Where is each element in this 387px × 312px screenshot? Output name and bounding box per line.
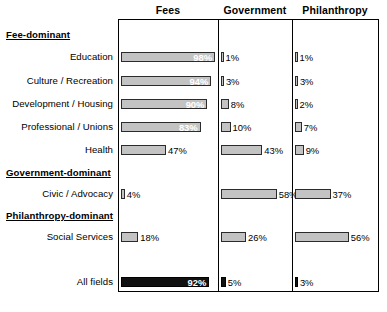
bar-culture-recreation-fees: 94%: [121, 76, 211, 86]
row-label-health: Health: [85, 144, 113, 155]
bar-value-education-fees: 98%: [193, 53, 212, 63]
bar-value-health-government: 43%: [264, 146, 283, 156]
column-header-philanthropy: Philanthropy: [285, 4, 385, 16]
bar-civic-advocacy-philanthropy: 37%: [295, 189, 331, 199]
column-divider-1: [218, 19, 219, 292]
bar-value-all-fields-philanthropy: 3%: [300, 278, 314, 288]
bar-value-development-housing-fees: 90%: [186, 100, 205, 110]
bar-culture-recreation-government: 3%: [221, 76, 224, 86]
row-label-development-housing: Development / Housing: [12, 98, 113, 109]
bar-development-housing-philanthropy: 2%: [295, 99, 298, 109]
bar-education-government: 1%: [221, 52, 224, 62]
bar-value-culture-recreation-philanthropy: 3%: [300, 77, 314, 87]
section-header-philanthropy-dominant-label: Philanthropy-dominant: [6, 210, 113, 221]
bar-value-health-philanthropy: 9%: [306, 146, 320, 156]
bar-value-development-housing-government: 8%: [231, 100, 245, 110]
bar-value-all-fields-fees: 92%: [188, 278, 207, 288]
bar-value-all-fields-government: 5%: [228, 278, 242, 288]
column-header-fees: Fees: [118, 4, 218, 16]
bar-value-development-housing-philanthropy: 2%: [300, 100, 314, 110]
section-header-fee-dominant: Fee-dominant: [6, 29, 70, 40]
bar-value-professional-unions-fees: 83%: [179, 123, 198, 133]
column-header-government-label: Government: [224, 4, 287, 16]
bar-value-civic-advocacy-philanthropy: 37%: [333, 190, 352, 200]
bar-all-fields-philanthropy: 3%: [295, 277, 298, 287]
row-label-professional-unions: Professional / Unions: [21, 121, 113, 132]
section-header-government-dominant-label: Government-dominant: [6, 167, 111, 178]
bar-professional-unions-philanthropy: 7%: [295, 122, 302, 132]
bar-social-services-government: 26%: [221, 232, 246, 242]
bar-value-social-services-philanthropy: 56%: [351, 233, 370, 243]
section-header-government-dominant: Government-dominant: [6, 167, 111, 178]
bar-education-fees: 98%: [121, 52, 215, 62]
bar-development-housing-government: 8%: [221, 99, 229, 109]
bar-health-philanthropy: 9%: [295, 145, 304, 155]
bar-value-education-philanthropy: 1%: [300, 53, 314, 63]
section-header-philanthropy-dominant: Philanthropy-dominant: [6, 210, 113, 221]
bar-civic-advocacy-government: 58%: [221, 189, 277, 199]
bar-value-professional-unions-philanthropy: 7%: [304, 123, 318, 133]
bar-value-civic-advocacy-fees: 4%: [127, 190, 141, 200]
row-label-civic-advocacy: Civic / Advocacy: [42, 188, 113, 199]
bar-health-fees: 47%: [121, 145, 166, 155]
bar-value-culture-recreation-fees: 94%: [189, 77, 208, 87]
bar-value-social-services-government: 26%: [248, 233, 267, 243]
bar-value-education-government: 1%: [226, 53, 240, 63]
bar-value-culture-recreation-government: 3%: [226, 77, 240, 87]
column-header-fees-label: Fees: [156, 4, 180, 16]
bar-culture-recreation-philanthropy: 3%: [295, 76, 298, 86]
section-header-fee-dominant-label: Fee-dominant: [6, 29, 70, 40]
bar-professional-unions-fees: 83%: [121, 122, 201, 132]
row-label-social-services: Social Services: [47, 231, 113, 242]
column-divider-2: [292, 19, 293, 292]
bar-civic-advocacy-fees: 4%: [121, 189, 125, 199]
bar-all-fields-fees: 92%: [121, 277, 209, 287]
bar-health-government: 43%: [221, 145, 262, 155]
bar-value-professional-unions-government: 10%: [233, 123, 252, 133]
bar-all-fields-government: 5%: [221, 277, 226, 287]
bar-value-health-fees: 47%: [168, 146, 187, 156]
bar-social-services-philanthropy: 56%: [295, 232, 349, 242]
row-label-education: Education: [70, 51, 113, 62]
bar-professional-unions-government: 10%: [221, 122, 231, 132]
bar-social-services-fees: 18%: [121, 232, 138, 242]
horizontal-bar-chart: Fees Government Philanthropy Fee-dominan…: [0, 0, 387, 312]
column-header-philanthropy-label: Philanthropy: [302, 4, 367, 16]
bar-development-housing-fees: 90%: [121, 99, 207, 109]
bar-value-social-services-fees: 18%: [140, 233, 159, 243]
bar-education-philanthropy: 1%: [295, 52, 298, 62]
row-label-culture-recreation: Culture / Recreation: [27, 75, 113, 86]
row-label-all-fields: All fields: [77, 276, 113, 287]
